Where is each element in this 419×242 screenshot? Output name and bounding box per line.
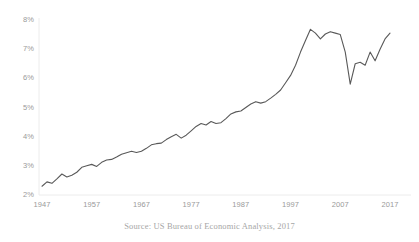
x-axis-tick-labels: 19471957196719771987199720072017 bbox=[0, 0, 419, 242]
x-tick-label: 2007 bbox=[332, 200, 349, 209]
x-tick-label: 1997 bbox=[282, 200, 299, 209]
x-tick-label: 1957 bbox=[83, 200, 100, 209]
x-tick-label: 1987 bbox=[232, 200, 249, 209]
x-tick-label: 1947 bbox=[33, 200, 50, 209]
x-tick-label: 1977 bbox=[183, 200, 200, 209]
chart-container: 8%7%6%5%4%3%2% 1947195719671977198719972… bbox=[0, 0, 419, 242]
source-note: Source: US Bureau of Economic Analysis, … bbox=[0, 221, 419, 231]
x-tick-label: 1967 bbox=[133, 200, 150, 209]
x-tick-label: 2017 bbox=[381, 200, 398, 209]
